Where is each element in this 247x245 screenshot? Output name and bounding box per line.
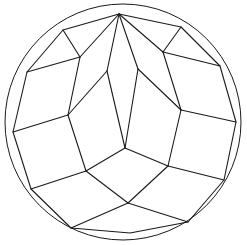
polyhedron-edge (128, 203, 188, 222)
polyhedron-edge (86, 171, 128, 203)
polyhedron-edge (68, 71, 107, 115)
polyhedron-edge (71, 203, 128, 228)
polyhedron-edge (163, 52, 220, 66)
polyhedron-edge (181, 110, 236, 122)
polyhedron-edge (168, 166, 224, 180)
polyhedron-edge (107, 71, 125, 148)
diagram-canvas (0, 0, 247, 245)
polyhedron-edge (128, 166, 168, 203)
polyhedron-edge (107, 14, 119, 71)
polyhedron-edge (86, 148, 125, 171)
polyhedron-diagram (0, 0, 247, 245)
polyhedron-edge (125, 148, 168, 166)
polyhedron-edge (168, 110, 181, 166)
polyhedron-edge (68, 57, 80, 115)
polyhedron-edge (31, 171, 86, 189)
polyhedron-edge (13, 115, 68, 132)
inner-edges (13, 14, 236, 228)
polyhedron-edge (125, 69, 138, 148)
polyhedron-edge (163, 27, 181, 52)
polyhedron-edge (68, 115, 86, 171)
polyhedron-edge (27, 57, 80, 72)
polyhedron-edge (63, 30, 80, 57)
polyhedron-edge (80, 14, 119, 57)
